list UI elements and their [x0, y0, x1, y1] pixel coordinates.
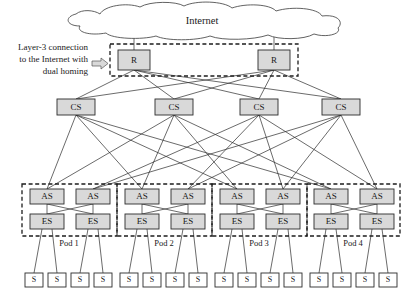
right-arrow-icon: [92, 58, 108, 69]
annotation-line-1: Layer-3 connection: [18, 42, 89, 52]
pod-4-edge-switch-2-label: ES: [372, 216, 383, 226]
pod-1-aggregation-switch-2[interactable]: AS: [76, 189, 110, 204]
pod-2-edge-switch-1-label: ES: [137, 216, 148, 226]
pod-3-server-3[interactable]: S: [261, 273, 279, 287]
pod-1-server-1[interactable]: S: [25, 273, 43, 287]
pod-1-aggregation-switch-1[interactable]: AS: [30, 189, 64, 204]
pod-2-label: Pod 2: [154, 238, 174, 248]
pod-3: AS AS ES ES Pod 3 S S: [212, 184, 307, 287]
pod-2-server-1[interactable]: S: [120, 273, 138, 287]
annotation-line-3: dual homing: [43, 66, 89, 76]
pod-2: AS AS ES ES Pod 2 S S: [117, 184, 212, 287]
pod-3-server-4[interactable]: S: [284, 273, 302, 287]
router-to-core-links: [76, 70, 341, 99]
pod-4-server-2-label: S: [340, 275, 344, 284]
pod-1-server-2[interactable]: S: [48, 273, 66, 287]
pod-2-server-4-label: S: [196, 275, 200, 284]
pod-4-aggregation-switch-1[interactable]: AS: [314, 189, 348, 204]
core-switch-1[interactable]: CS: [57, 99, 95, 115]
pod-4-server-3[interactable]: S: [356, 273, 374, 287]
pod-1-edge-switch-2-label: ES: [88, 216, 99, 226]
pod-2-aggregation-switch-1-label: AS: [136, 191, 148, 201]
router-node-2-label: R: [271, 55, 277, 65]
pod-2-server-2-label: S: [150, 275, 154, 284]
pod-3-server-2-label: S: [245, 275, 249, 284]
pod-3-edge-switch-2[interactable]: ES: [266, 214, 300, 229]
pod-3-internal-links: [237, 204, 283, 214]
pod-2-server-3[interactable]: S: [166, 273, 184, 287]
pod-2-edge-switch-2-label: ES: [183, 216, 194, 226]
pod-1-internal-links: [47, 204, 93, 214]
pod-2-edge-switch-2[interactable]: ES: [171, 214, 205, 229]
pod-3-edge-switch-2-label: ES: [278, 216, 289, 226]
core-switch-2[interactable]: CS: [155, 99, 193, 115]
core-switch-4-label: CS: [335, 102, 346, 112]
pod-3-aggregation-switch-1[interactable]: AS: [220, 189, 254, 204]
pod-3-label: Pod 3: [249, 238, 269, 248]
core-switch-1-label: CS: [70, 102, 81, 112]
pod-2-server-2[interactable]: S: [143, 273, 161, 287]
pod-1-server-3-label: S: [78, 275, 82, 284]
pod-3-server-3-label: S: [268, 275, 272, 284]
pod-3-server-1-label: S: [222, 275, 226, 284]
pod-1-aggregation-switch-2-label: AS: [87, 191, 99, 201]
layer3-annotation: Layer-3 connection to the Internet with …: [18, 42, 108, 76]
pod-2-aggregation-switch-1[interactable]: AS: [125, 189, 159, 204]
pod-1-label: Pod 1: [59, 238, 79, 248]
pod-4-server-1[interactable]: S: [310, 273, 328, 287]
pod-4-server-1-label: S: [317, 275, 321, 284]
pod-4-aggregation-switch-2-label: AS: [371, 191, 383, 201]
pod-1-edge-switch-1-label: ES: [42, 216, 53, 226]
pod-4-label: Pod 4: [343, 238, 363, 248]
pod-1-server-4[interactable]: S: [94, 273, 112, 287]
core-switch-3[interactable]: CS: [240, 99, 278, 115]
annotation-line-2: to the Internet with: [19, 54, 88, 64]
router-node-2[interactable]: R: [258, 50, 290, 70]
pod-1-server-3[interactable]: S: [71, 273, 89, 287]
core-switch-2-label: CS: [168, 102, 179, 112]
pod-4-server-2[interactable]: S: [333, 273, 351, 287]
core-to-aggregation-links: [47, 115, 377, 189]
pod-2-server-1-label: S: [127, 275, 131, 284]
internet-cloud: Internet: [68, 2, 340, 40]
core-switch-4[interactable]: CS: [322, 99, 360, 115]
pod-3-edge-switch-1[interactable]: ES: [220, 214, 254, 229]
pod-3-aggregation-switch-1-label: AS: [231, 191, 243, 201]
pod-4-server-4-label: S: [386, 275, 390, 284]
pod-1-server-4-label: S: [101, 275, 105, 284]
pod-4-aggregation-switch-2[interactable]: AS: [360, 189, 394, 204]
pod-2-server-3-label: S: [173, 275, 177, 284]
pod-1-server-1-label: S: [32, 275, 36, 284]
pod-2-aggregation-switch-2[interactable]: AS: [171, 189, 205, 204]
pod-4-edge-switch-1-label: ES: [326, 216, 337, 226]
pod-1: AS AS ES ES Pod 1 S S: [22, 184, 117, 287]
pod-2-edge-switch-1[interactable]: ES: [125, 214, 159, 229]
pod-4-edge-switch-2[interactable]: ES: [360, 214, 394, 229]
pod-4-server-4[interactable]: S: [379, 273, 397, 287]
pod-3-server-4-label: S: [291, 275, 295, 284]
router-node-1-label: R: [131, 55, 137, 65]
core-switch-3-label: CS: [253, 102, 264, 112]
topology-figure: Internet R R Layer-3 connection to th: [0, 0, 405, 299]
pod-2-server-4[interactable]: S: [189, 273, 207, 287]
pod-2-internal-links: [142, 204, 188, 214]
pod-3-aggregation-switch-2-label: AS: [277, 191, 289, 201]
topology-diagram-canvas: Internet R R Layer-3 connection to th: [0, 0, 405, 299]
pod-3-edge-switch-1-label: ES: [232, 216, 243, 226]
pod-4-internal-links: [331, 204, 377, 214]
pod-3-server-1[interactable]: S: [215, 273, 233, 287]
pod-1-edge-switch-1[interactable]: ES: [30, 214, 64, 229]
pod-3-aggregation-switch-2[interactable]: AS: [266, 189, 300, 204]
pod-4-edge-switch-1[interactable]: ES: [314, 214, 348, 229]
pod-1-aggregation-switch-1-label: AS: [41, 191, 53, 201]
pod-4-aggregation-switch-1-label: AS: [325, 191, 337, 201]
pod-3-server-2[interactable]: S: [238, 273, 256, 287]
cloud-label: Internet: [186, 15, 219, 26]
pod-4-server-3-label: S: [363, 275, 367, 284]
pod-1-server-2-label: S: [55, 275, 59, 284]
pod-2-aggregation-switch-2-label: AS: [182, 191, 194, 201]
pod-1-edge-switch-2[interactable]: ES: [76, 214, 110, 229]
router-node-1[interactable]: R: [118, 50, 150, 70]
pod-4: AS AS ES ES Pod 4 S S: [307, 184, 400, 287]
